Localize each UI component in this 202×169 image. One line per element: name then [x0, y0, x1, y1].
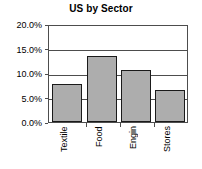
bar-food: [87, 56, 117, 122]
x-tick-label-textile: Textile: [60, 126, 69, 169]
y-tick-label-20: 20.0%: [16, 21, 42, 30]
bar-textile: [52, 84, 82, 122]
y-tick-label-15: 15.0%: [16, 45, 42, 54]
x-tick-label-engin: Engin: [129, 126, 138, 169]
x-tick-label-stores: Stores: [163, 126, 172, 169]
y-axis: 20.0% 15.0% 10.0% 5.0% 0.0%: [0, 25, 45, 123]
y-tick-label-5: 5.0%: [21, 94, 42, 103]
chart-title: US by Sector: [0, 3, 202, 15]
bars-layer: [49, 26, 187, 122]
bar-engin: [121, 70, 151, 122]
bar-stores: [155, 90, 185, 122]
y-tick-label-0: 0.0%: [21, 119, 42, 128]
x-axis: Textile Food Engin Stores: [48, 126, 188, 169]
y-tick-label-10: 10.0%: [16, 70, 42, 79]
y-tick-mark-0: [45, 123, 48, 124]
x-tick-label-food: Food: [95, 126, 104, 169]
bar-chart: US by Sector 20.0% 15.0% 10.0% 5.0% 0.0%…: [0, 0, 202, 169]
